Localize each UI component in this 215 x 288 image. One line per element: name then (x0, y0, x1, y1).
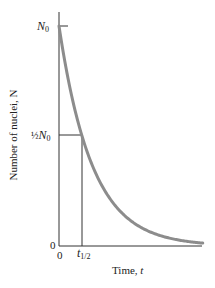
x-zero-label: 0 (57, 249, 63, 261)
t-half-label: t1/2 (77, 246, 91, 261)
decay-chart: Number of nuclei, N N0 ½N0 0 0 t1/2 Time… (0, 0, 215, 288)
n0-label: N0 (36, 19, 49, 34)
decay-curve (59, 26, 203, 243)
y-zero-label: 0 (50, 239, 56, 251)
x-axis-label: Time, t (112, 264, 144, 276)
half-n0-label: ½N0 (31, 128, 51, 143)
y-axis-label: Number of nuclei, N (7, 89, 19, 180)
